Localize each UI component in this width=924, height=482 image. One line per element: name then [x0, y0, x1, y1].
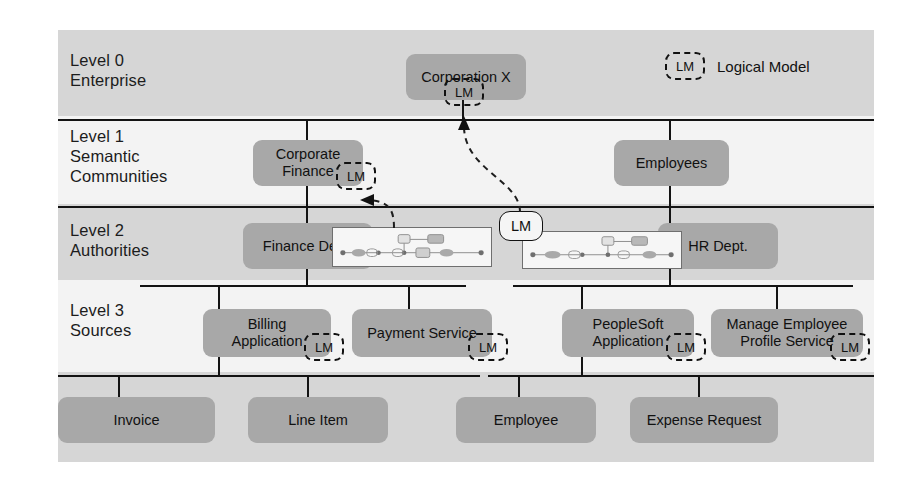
- connector-bus-hr-entities: [488, 375, 874, 377]
- connector-bus-finance-entities: [58, 375, 480, 377]
- band-label-level-1: Level 1 Semantic Communities: [70, 126, 167, 186]
- connector-drop-peoplesoft-application: [581, 285, 583, 309]
- band-label-level-0: Level 0 Enterprise: [70, 50, 146, 90]
- node-employees[interactable]: Employees: [614, 140, 729, 186]
- connector-bus-hr-sources: [513, 285, 853, 287]
- band-label-level-3: Level 3 Sources: [70, 300, 131, 340]
- band-level-1: [58, 116, 874, 204]
- level2-lm-badge[interactable]: LM: [499, 211, 543, 241]
- payment-service-lm-badge[interactable]: LM: [468, 333, 508, 361]
- connector-drop-payment-service: [408, 285, 410, 309]
- connector-stem-billing-application: [218, 355, 220, 375]
- connector-drop-manage-employee-profile-service: [776, 285, 778, 309]
- hierarchy-diagram: Level 0 Enterprise Level 1 Semantic Comm…: [58, 30, 874, 462]
- connector-drop-expense-request: [698, 375, 700, 397]
- connector-drop-employee: [518, 375, 520, 397]
- node-employee[interactable]: Employee: [456, 397, 596, 443]
- legend-label: Logical Model: [717, 58, 810, 75]
- connector-stem-employees: [669, 185, 671, 207]
- peoplesoft-application-lm-badge[interactable]: LM: [666, 333, 706, 361]
- connector-drop-invoice: [118, 375, 120, 397]
- connector-drop-corporate-finance: [306, 119, 308, 141]
- corporation-x-lm-badge[interactable]: LM: [444, 78, 484, 106]
- connector-drop-line-item: [307, 375, 309, 397]
- connector-bus-finance-sources: [140, 285, 466, 287]
- billing-application-lm-badge[interactable]: LM: [304, 333, 344, 361]
- node-line-item[interactable]: Line Item: [248, 397, 388, 443]
- connector-bus-level-0-1: [58, 119, 874, 121]
- manage-employee-profile-service-lm-badge[interactable]: LM: [830, 333, 870, 361]
- connector-stem-peoplesoft-application: [581, 355, 583, 375]
- legend: LM Logical Model: [665, 52, 810, 80]
- connector-stem-corporate-finance: [306, 185, 308, 207]
- connector-drop-employees: [669, 119, 671, 141]
- band-label-level-2: Level 2 Authorities: [70, 220, 149, 260]
- hr-model-thumbnail[interactable]: [522, 231, 682, 269]
- connector-bus-level-1-2: [58, 206, 874, 208]
- node-invoice[interactable]: Invoice: [58, 397, 215, 443]
- legend-lm-badge: LM: [665, 52, 705, 80]
- connector-drop-billing-application: [218, 285, 220, 309]
- node-expense-request[interactable]: Expense Request: [630, 397, 778, 443]
- finance-model-thumbnail[interactable]: [332, 227, 492, 267]
- corporate-finance-lm-badge[interactable]: LM: [336, 162, 376, 190]
